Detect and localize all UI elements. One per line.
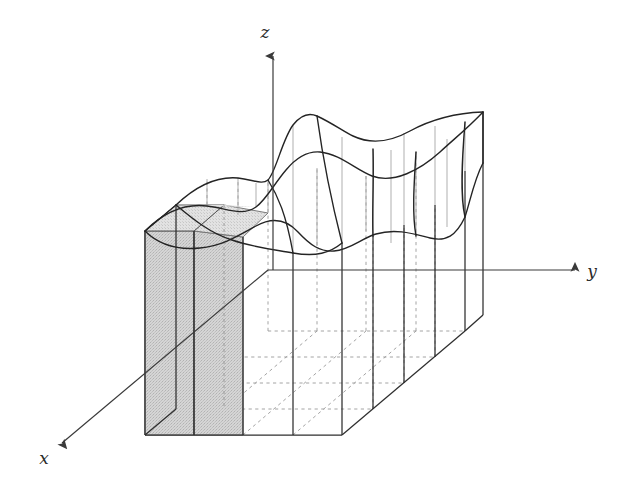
surface-interior-curve-a: [268, 180, 293, 253]
figure-root: z y x: [0, 0, 629, 494]
surface-interior-curve-c: [373, 149, 374, 236]
axis-labels: z y x: [39, 22, 597, 468]
slab-front-face: [145, 231, 194, 435]
surface-interior-curve-b: [317, 116, 342, 243]
slab-front-face-second: [194, 231, 243, 435]
y-axis-label: y: [586, 261, 597, 281]
representative-column-slab: [145, 205, 268, 435]
surface-volume-figure: z y x: [0, 0, 629, 494]
axes-group: [62, 56, 575, 443]
x-axis-label: x: [39, 448, 49, 468]
z-axis-label: z: [260, 22, 271, 42]
